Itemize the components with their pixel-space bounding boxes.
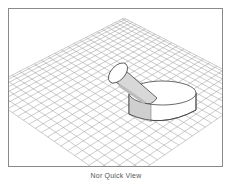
- scene-canvas[interactable]: [9, 9, 223, 167]
- viewport-caption: Nor Quick View: [0, 172, 232, 179]
- model-viewport[interactable]: [8, 8, 223, 167]
